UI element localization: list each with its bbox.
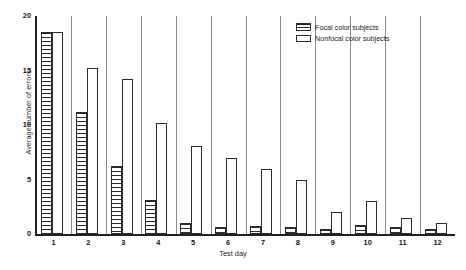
bar-nonfocal-day-1 (52, 32, 63, 234)
bar-nonfocal-day-9 (331, 212, 342, 234)
y-tick-0: 0 (9, 230, 31, 237)
x-tick-6: 6 (211, 238, 245, 247)
day-separator (211, 16, 212, 234)
bar-focal-day-9 (320, 229, 331, 234)
plot-area (36, 16, 455, 234)
day-separator (350, 16, 351, 234)
day-separator (420, 16, 421, 234)
x-tick-2: 2 (71, 238, 105, 247)
bar-nonfocal-day-12 (436, 223, 447, 234)
y-tick-20: 20 (9, 12, 31, 19)
bar-nonfocal-day-7 (261, 169, 272, 234)
legend-swatch-focal-icon (296, 23, 311, 31)
bar-focal-day-2 (76, 112, 87, 234)
bar-focal-day-7 (250, 226, 261, 234)
bar-nonfocal-day-6 (226, 158, 237, 234)
x-tick-12: 12 (421, 238, 455, 247)
x-tick-11: 11 (386, 238, 420, 247)
day-separator (315, 16, 316, 234)
x-tick-4: 4 (141, 238, 175, 247)
bar-chart: Average number of errors 05101520 123456… (0, 0, 466, 270)
bar-focal-day-11 (390, 227, 401, 234)
bar-focal-day-1 (41, 32, 52, 234)
day-separator (246, 16, 247, 234)
bar-nonfocal-day-3 (122, 79, 133, 234)
x-tick-7: 7 (246, 238, 280, 247)
bar-nonfocal-day-11 (401, 218, 412, 234)
x-axis-title: Test day (0, 249, 466, 258)
bar-focal-day-6 (215, 227, 226, 234)
bar-nonfocal-day-8 (296, 180, 307, 235)
bar-focal-day-10 (355, 225, 366, 234)
bar-nonfocal-day-2 (87, 68, 98, 234)
bar-nonfocal-day-4 (156, 123, 167, 234)
bar-nonfocal-day-5 (191, 146, 202, 234)
legend-label-nonfocal: Nonfocal color subjects (315, 34, 389, 43)
x-tick-3: 3 (106, 238, 140, 247)
bar-nonfocal-day-10 (366, 201, 377, 234)
bar-focal-day-3 (111, 166, 122, 234)
x-tick-9: 9 (316, 238, 350, 247)
y-tick-5: 5 (9, 176, 31, 183)
x-tick-5: 5 (176, 238, 210, 247)
bar-focal-day-4 (145, 200, 156, 234)
x-tick-1: 1 (36, 238, 70, 247)
legend: Focal color subjects Nonfocal color subj… (296, 22, 436, 45)
x-tick-8: 8 (281, 238, 315, 247)
y-tick-15: 15 (9, 67, 31, 74)
y-tick-10: 10 (9, 121, 31, 128)
bar-focal-day-12 (425, 229, 436, 234)
bar-focal-day-5 (180, 223, 191, 234)
x-axis-line (35, 234, 455, 236)
day-separator (176, 16, 177, 234)
y-axis-title: Average number of errors (24, 33, 33, 193)
x-tick-10: 10 (351, 238, 385, 247)
bar-focal-day-8 (285, 227, 296, 234)
day-separator (71, 16, 72, 234)
legend-swatch-nonfocal-icon (296, 35, 311, 43)
day-separator (385, 16, 386, 234)
legend-item-focal: Focal color subjects (296, 22, 436, 32)
legend-item-nonfocal: Nonfocal color subjects (296, 34, 436, 44)
day-separator (141, 16, 142, 234)
day-separator (280, 16, 281, 234)
day-separator (106, 16, 107, 234)
legend-label-focal: Focal color subjects (315, 23, 379, 32)
